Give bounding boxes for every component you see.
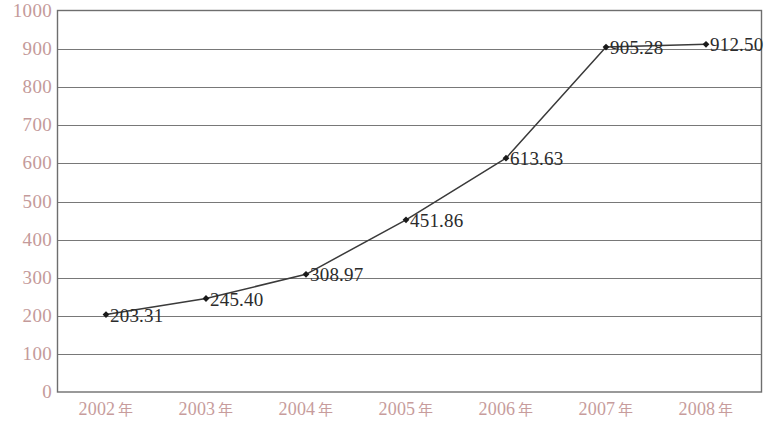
year-unit-character: 年 xyxy=(315,401,333,419)
plot-frame xyxy=(58,11,762,393)
line-chart: 10009008007006005004003002001000 203.312… xyxy=(0,0,769,422)
x-axis-tick-labels: 2002年2003年2004年2005年2006年2007年2008年 xyxy=(0,399,769,422)
x-axis-tick-label: 2004年 xyxy=(278,399,333,421)
data-point-label: 912.50 xyxy=(710,35,763,54)
data-point-marker xyxy=(703,41,710,48)
year-unit-character: 年 xyxy=(615,401,633,419)
data-point-label: 613.63 xyxy=(510,149,563,168)
plot-area xyxy=(0,0,769,422)
x-axis-tick-label: 2007年 xyxy=(578,399,633,421)
x-axis-tick-label: 2003年 xyxy=(178,399,233,421)
data-point-label: 905.28 xyxy=(610,38,663,57)
data-point-label: 203.31 xyxy=(110,306,163,325)
data-point-label: 451.86 xyxy=(410,211,463,230)
data-point-markers xyxy=(103,41,710,318)
year-unit-character: 年 xyxy=(215,401,233,419)
x-axis-tick-label: 2005年 xyxy=(378,399,433,421)
x-axis-tick-label: 2006年 xyxy=(478,399,533,421)
x-axis-tick-label: 2008年 xyxy=(678,399,733,421)
x-axis-tick-label: 2002年 xyxy=(78,399,133,421)
gridlines xyxy=(58,50,762,355)
data-point-label: 245.40 xyxy=(210,290,263,309)
data-point-marker xyxy=(203,295,210,302)
series-line xyxy=(106,44,706,314)
year-unit-character: 年 xyxy=(515,401,533,419)
data-point-marker xyxy=(303,271,310,278)
year-unit-character: 年 xyxy=(415,401,433,419)
year-unit-character: 年 xyxy=(115,401,133,419)
year-unit-character: 年 xyxy=(715,401,733,419)
data-point-label: 308.97 xyxy=(310,265,363,284)
